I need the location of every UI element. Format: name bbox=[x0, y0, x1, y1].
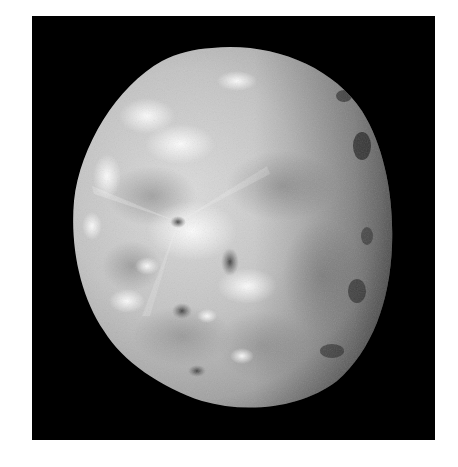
moon-photo bbox=[32, 16, 435, 440]
moon-image bbox=[32, 16, 435, 440]
